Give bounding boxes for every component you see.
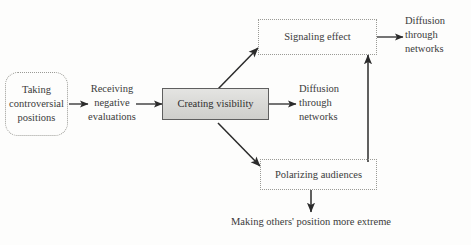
connector-creating-to-signaling (218, 48, 258, 89)
node-taking-controversial-positions[interactable]: Taking controversial positions (5, 72, 68, 136)
label-diffusion-middle-line3: networks (299, 110, 361, 124)
label-making-others-position-more-extreme: Making others' position more extreme (231, 215, 391, 229)
node-taking-line1: Taking (9, 83, 64, 97)
label-diffusion-top-line1: Diffusion (405, 14, 467, 28)
node-receiving-line2: negative (86, 96, 138, 110)
node-creating-visibility[interactable]: Creating visibility (162, 88, 269, 120)
connector-layer (0, 0, 471, 245)
label-diffusion-through-networks-middle: Diffusion through networks (299, 82, 361, 124)
node-receiving-negative-evaluations: Receiving negative evaluations (86, 82, 138, 124)
connector-creating-to-polarizing (218, 123, 260, 166)
node-polarizing-audiences-label: Polarizing audiences (275, 168, 362, 182)
node-receiving-line3: evaluations (86, 110, 138, 124)
label-diffusion-middle-line2: through (299, 96, 361, 110)
node-signaling-effect[interactable]: Signaling effect (258, 19, 377, 55)
node-signaling-effect-label: Signaling effect (284, 30, 351, 44)
diagram-canvas: Taking controversial positions Receiving… (0, 0, 471, 245)
node-taking-line3: positions (9, 111, 64, 125)
node-receiving-line1: Receiving (86, 82, 138, 96)
node-taking-line2: controversial (9, 97, 64, 111)
node-creating-visibility-label: Creating visibility (177, 97, 253, 111)
label-diffusion-middle-line1: Diffusion (299, 82, 361, 96)
label-making-others-line1: Making others' position more extreme (231, 215, 391, 229)
node-polarizing-audiences[interactable]: Polarizing audiences (260, 159, 377, 190)
label-diffusion-top-line3: networks (405, 42, 467, 56)
label-diffusion-through-networks-top: Diffusion through networks (405, 14, 467, 56)
label-diffusion-top-line2: through (405, 28, 467, 42)
